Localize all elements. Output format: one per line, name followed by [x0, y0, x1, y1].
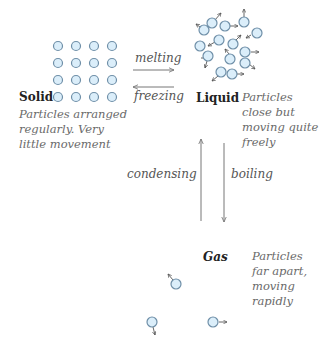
solid-particles: [54, 42, 117, 102]
gas-particles: [147, 274, 227, 335]
gas-description: Particles far apart, moving rapidly: [252, 249, 316, 309]
freezing-label: freezing: [134, 89, 184, 103]
gas-label: Gas: [203, 250, 228, 264]
solid-label: Solid: [19, 90, 53, 104]
liquid-label: Liquid: [196, 91, 239, 105]
melting-label: melting: [135, 51, 181, 65]
liquid-particles: [195, 9, 262, 81]
condensing-label: condensing: [127, 167, 197, 181]
boiling-label: boiling: [231, 167, 273, 181]
states-of-matter-diagram: Solid Particles arranged regularly. Very…: [0, 0, 322, 350]
solid-description: Particles arranged regularly. Very littl…: [19, 107, 134, 152]
liquid-description: Particles close but moving quite freely: [242, 90, 322, 150]
